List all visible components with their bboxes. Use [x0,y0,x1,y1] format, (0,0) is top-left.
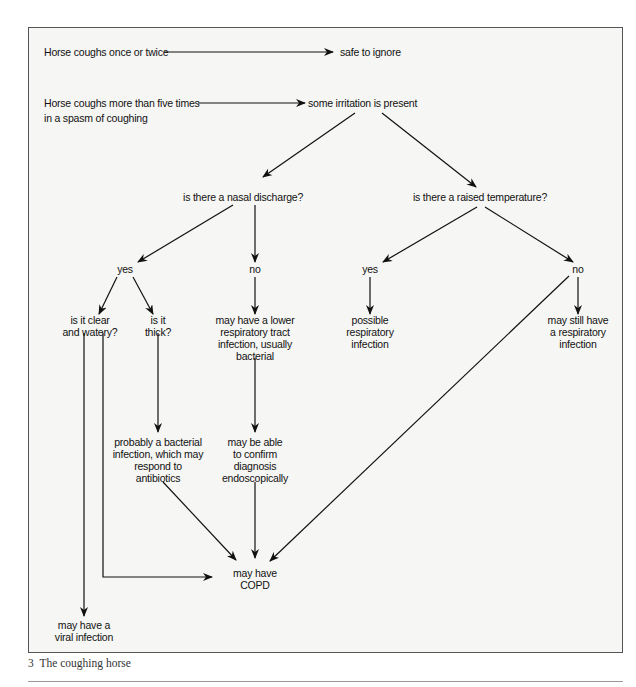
node-clear-watery-line2: and watery? [58,326,122,338]
node-nasal-yes: yes [110,263,140,275]
node-safe-to-ignore: safe to ignore [340,46,401,58]
node-lower-respiratory-line4: bacterial [205,350,305,362]
node-possible-respiratory-line3: infection [330,338,410,350]
node-may-have-copd-line2: COPD [220,579,290,591]
node-clear-watery: is it clear and watery? [58,314,122,338]
node-nasal-no: no [240,263,270,275]
node-probably-bacterial-line3: respond to [104,460,212,472]
figure-caption-text: The coughing horse [40,657,131,669]
node-still-respiratory-line3: infection [538,338,618,350]
node-confirm-endoscopically-line4: endoscopically [210,472,300,484]
node-possible-respiratory-line2: respiratory [330,326,410,338]
node-thick: is it thick? [138,314,178,338]
node-may-have-copd: may have COPD [220,567,290,591]
node-lower-respiratory: may have a lower respiratory tract infec… [205,314,305,362]
node-coughs-more-five-line2: in a spasm of coughing [44,112,148,124]
node-raised-temperature-question: is there a raised temperature? [410,191,550,203]
node-temp-yes: yes [355,263,385,275]
node-still-respiratory-line2: a respiratory [538,326,618,338]
node-irritation-present: some irritation is present [308,97,417,109]
node-lower-respiratory-line2: respiratory tract [205,326,305,338]
node-confirm-endoscopically-line2: to confirm [210,448,300,460]
figure-caption: 3 The coughing horse [28,657,131,669]
node-viral-infection-line1: may have a [44,619,124,631]
bottom-rule [28,681,623,682]
node-confirm-endoscopically-line3: diagnosis [210,460,300,472]
node-probably-bacterial: probably a bacterial infection, which ma… [104,436,212,484]
node-viral-infection-line2: viral infection [44,631,124,643]
node-coughs-more-five-line1: Horse coughs more than five times [44,97,200,109]
node-coughs-once-twice: Horse coughs once or twice [44,46,168,58]
node-confirm-endoscopically-line1: may be able [210,436,300,448]
node-temp-no: no [563,263,593,275]
node-thick-line2: thick? [138,326,178,338]
node-nasal-discharge-question: is there a nasal discharge? [183,191,303,203]
node-lower-respiratory-line1: may have a lower [205,314,305,326]
node-still-respiratory-line1: may still have [538,314,618,326]
node-probably-bacterial-line1: probably a bacterial [104,436,212,448]
node-probably-bacterial-line4: antibiotics [104,472,212,484]
node-viral-infection: may have a viral infection [44,619,124,643]
node-probably-bacterial-line2: infection, which may [104,448,212,460]
node-lower-respiratory-line3: infection, usually [205,338,305,350]
node-clear-watery-line1: is it clear [58,314,122,326]
node-thick-line1: is it [138,314,178,326]
node-confirm-endoscopically: may be able to confirm diagnosis endosco… [210,436,300,484]
node-possible-respiratory-line1: possible [330,314,410,326]
node-possible-respiratory: possible respiratory infection [330,314,410,350]
node-may-have-copd-line1: may have [220,567,290,579]
figure-number: 3 [28,657,34,669]
node-still-respiratory: may still have a respiratory infection [538,314,618,350]
